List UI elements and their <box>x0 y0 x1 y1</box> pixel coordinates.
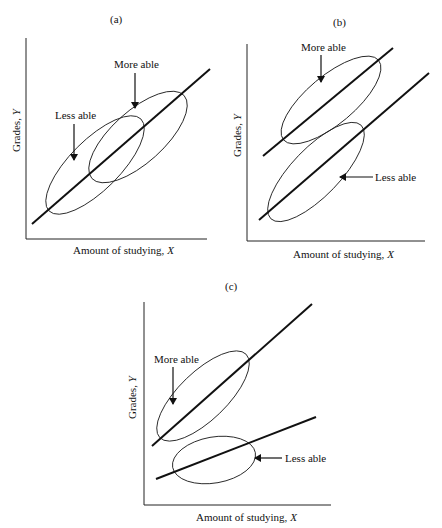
panel-b-axes <box>247 44 425 241</box>
panel-b-more-able-label: More able <box>301 42 346 53</box>
panel-c-x-axis-label: Amount of studying, X <box>196 512 297 523</box>
panel-b-y-axis-label: Grades, Y <box>232 114 243 157</box>
panel-c-axes <box>144 302 331 505</box>
panel-b-more-able-line <box>263 48 393 156</box>
panel-c-more-able-label: More able <box>154 354 199 365</box>
panel-c-label: (c) <box>225 281 237 292</box>
panel-b-label: (b) <box>333 17 346 28</box>
panel-b-less-able-label: Less able <box>375 172 416 183</box>
panel-a-less-able-label: Less able <box>55 110 96 121</box>
panel-c-more-able-line <box>152 304 312 446</box>
panel-a-regression-line <box>32 69 210 224</box>
panel-c-less-able-label: Less able <box>285 453 326 464</box>
panel-a-x-axis-label: Amount of studying, X <box>73 245 174 256</box>
panel-c-less-able-line <box>156 417 316 479</box>
figure-canvas <box>0 0 442 528</box>
panel-c-y-axis-label: Grades, Y <box>127 376 138 419</box>
panel-a-y-axis-label: Grades, Y <box>11 109 22 152</box>
panel-b-x-axis-label: Amount of studying, X <box>293 249 394 260</box>
panel-a-more-able-ellipse <box>75 76 202 198</box>
panel-c <box>143 302 331 505</box>
panel-a-label: (a) <box>110 14 122 25</box>
panel-a-more-able-label: More able <box>114 59 159 70</box>
panel-b <box>247 42 429 241</box>
panel-b-less-able-line <box>259 73 429 220</box>
panel-c-less-able-ellipse <box>169 430 260 490</box>
